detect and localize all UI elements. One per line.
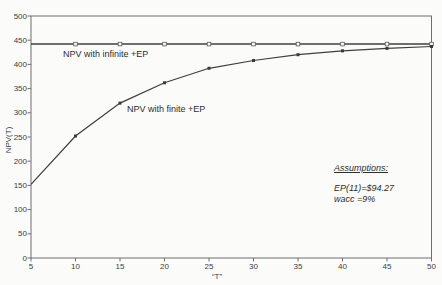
x-tick-label: 40 [334, 262, 352, 271]
marker-open-square [207, 42, 211, 46]
y-tick-label: 250 [3, 133, 27, 142]
marker-filled-square [74, 135, 77, 138]
x-tick-label: 45 [378, 262, 396, 271]
y-tick-label: 450 [3, 36, 27, 45]
x-tick-label: 5 [22, 262, 40, 271]
npv-chart: NPV(T) “T” NPV with infinite +EP NPV wit… [0, 0, 442, 285]
plot-area [0, 0, 442, 285]
marker-open-square [385, 42, 389, 46]
x-axis-title: “T” [205, 272, 229, 281]
x-tick-label: 35 [289, 262, 307, 271]
y-tick-label: 200 [3, 157, 27, 166]
assumption-ep-value: EP(11)=$94.27 [334, 183, 394, 194]
x-tick-label: 50 [423, 262, 441, 271]
series-label-finite-ep: NPV with finite +EP [127, 104, 205, 114]
y-tick-label: 150 [3, 181, 27, 190]
marker-filled-square [386, 47, 389, 50]
marker-open-square [74, 42, 78, 46]
y-tick-label: 500 [3, 12, 27, 21]
y-tick-label: 350 [3, 84, 27, 93]
y-tick-label: 400 [3, 60, 27, 69]
marker-filled-square [208, 67, 211, 70]
marker-filled-square [119, 102, 122, 105]
marker-open-square [296, 42, 300, 46]
assumption-wacc-value: wacc =9% [334, 194, 394, 205]
marker-filled-square [341, 49, 344, 52]
marker-filled-square [297, 53, 300, 56]
series-label-infinite-ep: NPV with infinite +EP [63, 49, 148, 59]
assumptions-annotation: Assumptions: EP(11)=$94.27 wacc =9% [334, 163, 394, 205]
x-tick-label: 10 [67, 262, 85, 271]
y-tick-label: 300 [3, 108, 27, 117]
y-tick-label: 50 [3, 229, 27, 238]
marker-filled-square [430, 45, 433, 48]
y-tick-label: 100 [3, 205, 27, 214]
marker-open-square [341, 42, 345, 46]
marker-open-square [252, 42, 256, 46]
x-tick-label: 20 [156, 262, 174, 271]
x-tick-label: 30 [245, 262, 263, 271]
marker-open-square [118, 42, 122, 46]
x-tick-label: 25 [200, 262, 218, 271]
x-tick-label: 15 [111, 262, 129, 271]
marker-open-square [163, 42, 167, 46]
assumptions-heading: Assumptions: [334, 163, 394, 174]
marker-filled-square [163, 81, 166, 84]
marker-filled-square [252, 59, 255, 62]
